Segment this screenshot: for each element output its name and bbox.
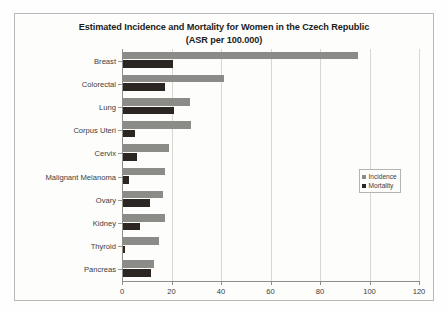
y-tick-mark xyxy=(118,200,122,201)
x-tick-mark xyxy=(271,281,272,285)
x-tick-mark xyxy=(122,281,123,285)
chart-page: Estimated Incidence and Mortality for Wo… xyxy=(0,0,448,314)
y-category-label: Ovary xyxy=(96,195,116,204)
bar-incidence xyxy=(123,260,154,268)
y-category-label: Colorectal xyxy=(82,79,116,88)
bar-mortality xyxy=(123,60,173,68)
y-tick-mark xyxy=(118,177,122,178)
chart-category-row: Breast xyxy=(122,49,419,72)
x-tick-label: 20 xyxy=(167,287,175,296)
y-tick-mark xyxy=(118,130,122,131)
x-tick-label: 40 xyxy=(217,287,225,296)
legend-item-mortality: Mortality xyxy=(362,181,397,190)
y-tick-mark xyxy=(118,153,122,154)
y-category-label: Malignant Melanoma xyxy=(46,172,117,181)
bar-mortality xyxy=(123,246,125,254)
chart-category-row: Pancreas xyxy=(122,258,419,281)
x-tick-mark xyxy=(221,281,222,285)
x-tick-mark xyxy=(320,281,321,285)
bar-mortality xyxy=(123,153,137,161)
bar-mortality xyxy=(123,107,174,115)
chart-category-row: Corpus Uteri xyxy=(122,119,419,142)
y-category-label: Corpus Uteri xyxy=(73,126,116,135)
chart-subtitle: (ASR per 100.000) xyxy=(15,34,433,47)
bar-mortality xyxy=(123,269,151,277)
chart-category-row: Cervix xyxy=(122,142,419,165)
bar-incidence xyxy=(123,75,224,83)
x-tick-label: 80 xyxy=(316,287,324,296)
chart-legend: Incidence Mortality xyxy=(359,169,401,193)
bar-incidence xyxy=(123,191,163,199)
bar-mortality xyxy=(123,176,129,184)
y-tick-mark xyxy=(118,84,122,85)
x-tick-mark xyxy=(370,281,371,285)
bar-mortality xyxy=(123,83,165,91)
legend-item-incidence: Incidence xyxy=(362,172,397,181)
bar-incidence xyxy=(123,214,165,222)
chart-category-row: Colorectal xyxy=(122,72,419,95)
bar-incidence xyxy=(123,168,165,176)
chart-category-row: Thyroid xyxy=(122,235,419,258)
legend-swatch-incidence-icon xyxy=(362,175,366,179)
x-tick-mark xyxy=(172,281,173,285)
bar-mortality xyxy=(123,130,135,138)
x-tick-label: 120 xyxy=(413,287,426,296)
x-tick-label: 0 xyxy=(120,287,124,296)
y-category-label: Breast xyxy=(94,56,116,65)
y-tick-mark xyxy=(118,246,122,247)
legend-label-incidence: Incidence xyxy=(369,172,397,181)
chart-title: Estimated Incidence and Mortality for Wo… xyxy=(15,21,433,47)
x-tick-mark xyxy=(419,281,420,285)
y-category-label: Kidney xyxy=(93,218,116,227)
bar-mortality xyxy=(123,199,150,207)
chart-frame: Estimated Incidence and Mortality for Wo… xyxy=(14,13,434,301)
x-tick-label: 100 xyxy=(363,287,376,296)
y-tick-mark xyxy=(118,107,122,108)
bar-incidence xyxy=(123,52,358,60)
legend-swatch-mortality-icon xyxy=(362,184,366,188)
x-tick-label: 60 xyxy=(266,287,274,296)
y-category-label: Thyroid xyxy=(91,242,116,251)
bar-incidence xyxy=(123,237,159,245)
chart-category-row: Lung xyxy=(122,95,419,118)
legend-label-mortality: Mortality xyxy=(369,181,394,190)
bar-incidence xyxy=(123,98,190,106)
bar-incidence xyxy=(123,121,191,129)
y-category-label: Pancreas xyxy=(84,265,116,274)
chart-title-line-1: Estimated Incidence and Mortality for Wo… xyxy=(79,22,369,32)
y-tick-mark xyxy=(118,223,122,224)
bar-mortality xyxy=(123,223,140,231)
x-gridline xyxy=(419,49,420,281)
y-tick-mark xyxy=(118,269,122,270)
chart-category-row: Kidney xyxy=(122,211,419,234)
bar-incidence xyxy=(123,144,169,152)
y-category-label: Lung xyxy=(99,102,116,111)
y-tick-mark xyxy=(118,61,122,62)
plot-area: BreastColorectalLungCorpus UteriCervixMa… xyxy=(122,49,419,281)
y-category-label: Cervix xyxy=(94,149,116,158)
